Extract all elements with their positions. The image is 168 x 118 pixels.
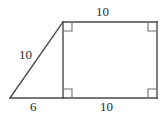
rect-top-left-right-angle-icon <box>63 22 72 31</box>
dimension-label-top: 10 <box>96 5 109 18</box>
dimension-label-triangle-base: 6 <box>30 100 37 113</box>
dimension-label-rectangle-bottom: 10 <box>100 100 113 113</box>
rect-bottom-left-right-angle-icon <box>63 89 72 98</box>
rect-top-right-right-angle-icon <box>148 22 157 31</box>
rect-bottom-right-right-angle-icon <box>148 89 157 98</box>
triangle-hypotenuse-line <box>10 22 63 98</box>
geometry-figure-canvas: 10 10 6 10 <box>0 0 168 118</box>
right-angle-marker-group <box>63 22 157 98</box>
dimension-label-hypotenuse: 10 <box>19 48 32 61</box>
